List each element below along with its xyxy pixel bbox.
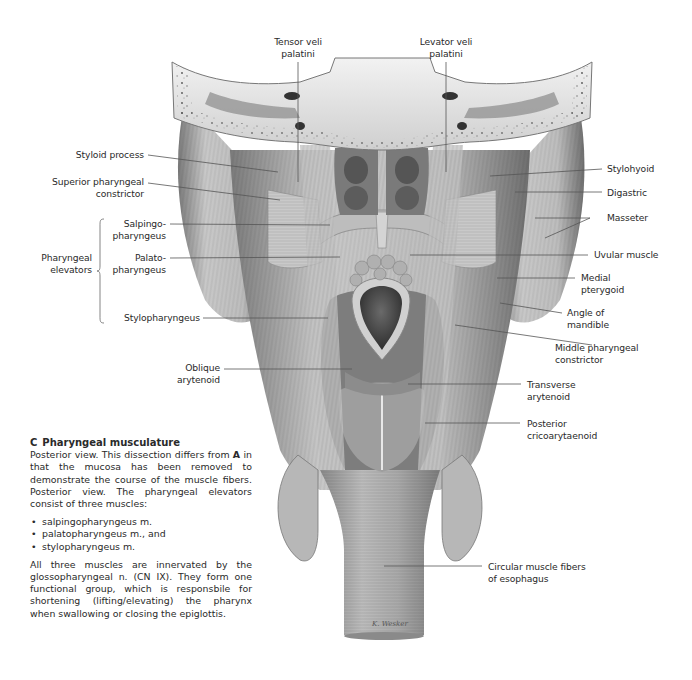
label-angle-of-mandible: Angle of mandible	[567, 307, 609, 330]
label-masseter: Masseter	[607, 212, 648, 224]
caption-paragraph-2: All three muscles are innervated by the …	[30, 559, 252, 620]
label-superior-pharyngeal-constrictor: Superior pharyngeal constrictor	[30, 176, 144, 199]
label-salpingopharyngeus: Salpingo- pharyngeus	[100, 218, 166, 241]
label-medial-pterygoid: Medial pterygoid	[581, 272, 624, 295]
label-transverse-arytenoid: Transverse arytenoid	[527, 379, 576, 402]
caption-title: CPharyngeal musculature	[30, 437, 252, 449]
svg-text:K. Wesker: K. Wesker	[371, 620, 408, 628]
label-posterior-cricoarytaenoid: Posterior cricoarytaenoid	[527, 418, 597, 441]
caption-bullet: stylopharyngeus m.	[30, 541, 252, 553]
label-pharyngeal-elevators: Pharyngeal elevators	[30, 252, 92, 275]
label-stylohyoid: Stylohyoid	[607, 163, 654, 175]
label-stylopharyngeus: Stylopharyngeus	[110, 312, 200, 324]
label-oblique-arytenoid: Oblique arytenoid	[160, 362, 220, 385]
caption-bullet-list: salpingopharyngeus m. palatopharyngeus m…	[30, 516, 252, 553]
caption-bullet: palatopharyngeus m., and	[30, 528, 252, 540]
label-styloid-process: Styloid process	[40, 149, 144, 161]
caption-p1-start: Posterior view. This dissection differs …	[30, 449, 233, 460]
caption-bullet: salpingopharyngeus m.	[30, 516, 252, 528]
label-levator-veli-palatini: Levator veli palatini	[414, 36, 478, 59]
label-middle-pharyngeal-constrictor: Middle pharyngeal constrictor	[555, 342, 639, 365]
label-palatopharyngeus: Palato- pharyngeus	[100, 252, 166, 275]
caption-paragraph-1: Posterior view. This dissection differs …	[30, 449, 252, 510]
figure-caption: CPharyngeal musculature Posterior view. …	[30, 437, 252, 620]
label-circular-muscle-fibers: Circular muscle fibers of esophagus	[488, 561, 586, 584]
label-digastric: Digastric	[607, 187, 647, 199]
caption-letter: C	[30, 437, 37, 448]
label-tensor-veli-palatini: Tensor veli palatini	[268, 36, 328, 59]
label-uvular-muscle: Uvular muscle	[594, 249, 658, 261]
caption-title-text: Pharyngeal musculature	[42, 437, 180, 448]
